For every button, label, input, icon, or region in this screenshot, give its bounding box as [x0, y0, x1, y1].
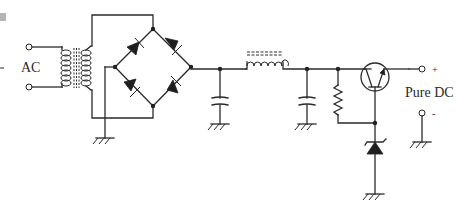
- ac-terminal-bottom: [26, 84, 32, 90]
- pure-dc-label: Pure DC: [405, 85, 454, 100]
- choke-inductor: [246, 52, 307, 69]
- pass-transistor: [361, 63, 409, 142]
- bridge-rectifier: [105, 27, 193, 138]
- diode-2: [165, 38, 182, 55]
- negative-label: -: [432, 108, 435, 119]
- positive-label: +: [432, 64, 438, 75]
- power-supply-schematic: AC: [0, 0, 473, 216]
- schematic-canvas: AC: [0, 0, 473, 216]
- ac-label: AC: [21, 60, 40, 75]
- output-terminal-negative: [419, 110, 425, 116]
- ac-input: AC: [21, 44, 62, 90]
- zener-diode: [363, 139, 386, 200]
- ground-1: [93, 138, 114, 144]
- dc-output: + Pure DC -: [405, 64, 454, 148]
- diode-3: [124, 79, 140, 97]
- filter-capacitor-1: [208, 69, 229, 130]
- edge-block: [0, 13, 6, 21]
- ac-terminal-top: [26, 44, 32, 50]
- output-terminal-positive: [419, 66, 425, 72]
- filter-capacitor-2: [295, 69, 316, 130]
